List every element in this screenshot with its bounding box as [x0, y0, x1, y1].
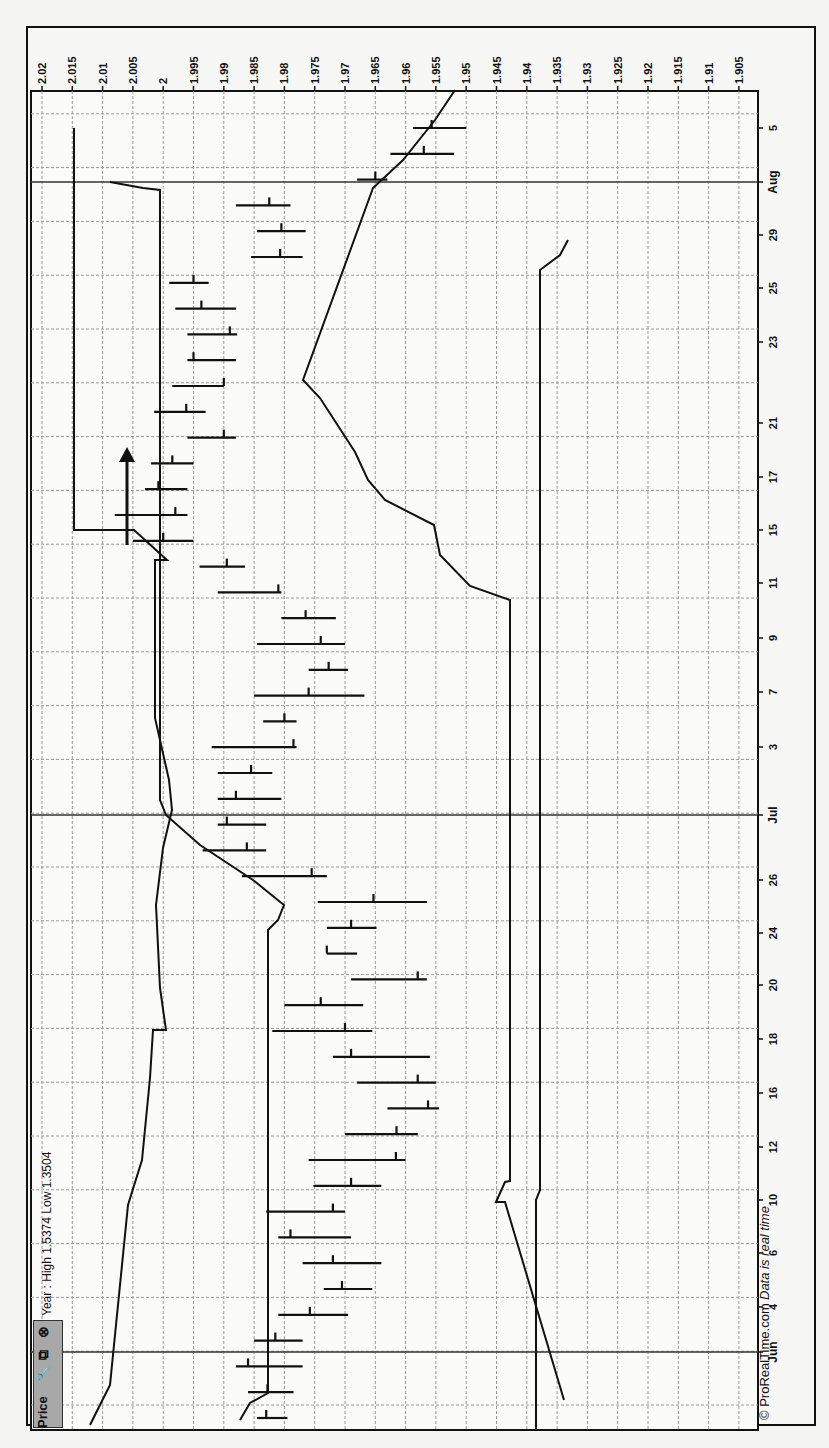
price-tick-label: 1.93 — [581, 63, 593, 84]
wrench-icon[interactable]: 🔧 — [35, 1365, 51, 1382]
date-tick-label: 24 — [767, 926, 779, 939]
duplicate-icon[interactable]: ⧉ — [35, 1350, 52, 1360]
date-tick-label: 23 — [767, 336, 779, 348]
plot-area — [31, 91, 758, 1430]
date-tick-label: 16 — [767, 1087, 779, 1099]
price-tick-label: 1.91 — [703, 63, 715, 84]
panel-title: Price — [35, 1396, 50, 1428]
date-tick-label: Jul — [766, 806, 780, 823]
date-tick-label: 12 — [767, 1141, 779, 1153]
realtime-note: Data is real time — [757, 1206, 772, 1300]
price-tick-label: 1.925 — [612, 56, 624, 84]
date-tick-label: 15 — [767, 524, 779, 536]
year-high-low-info: Year : High 1.5374 Low 1.3504 — [40, 1152, 54, 1316]
price-tick-label: 1.935 — [551, 56, 563, 84]
date-tick-label: 26 — [767, 874, 779, 886]
price-tick-label: 1.99 — [218, 63, 230, 84]
price-tick-label: 2 — [157, 78, 169, 84]
price-tick-label: 1.98 — [278, 63, 290, 84]
price-tick-label: 1.97 — [339, 63, 351, 84]
date-tick-label: 21 — [767, 417, 779, 429]
date-tick-label: 17 — [767, 471, 779, 483]
date-tick-label: 5 — [767, 125, 779, 131]
price-tick-label: 1.915 — [672, 56, 684, 84]
date-tick-label: 3 — [767, 744, 779, 750]
price-tick-label: 1.985 — [248, 56, 260, 84]
date-tick-label: 9 — [767, 635, 779, 641]
date-tick-label: 29 — [767, 229, 779, 241]
price-tick-label: 1.955 — [430, 56, 442, 84]
price-tick-label: 1.905 — [733, 56, 745, 84]
price-tick-label: 1.995 — [188, 56, 200, 84]
price-tick-label: 2.01 — [97, 63, 109, 84]
price-tick-label: 1.965 — [369, 56, 381, 84]
copyright-text: © ProRealTime.com — [757, 1303, 772, 1420]
price-tick-label: 1.975 — [309, 56, 321, 84]
price-tick-label: 2.005 — [127, 56, 139, 84]
date-tick-label: 18 — [767, 1033, 779, 1045]
price-tick-label: 1.95 — [460, 63, 472, 84]
close-icon[interactable]: ⊗ — [35, 1326, 51, 1338]
price-tick-label: 1.94 — [521, 62, 533, 84]
date-tick-label: Aug — [766, 170, 780, 193]
date-tick-label: 20 — [767, 979, 779, 991]
price-tick-label: 1.96 — [400, 63, 412, 84]
date-tick-label: 25 — [767, 282, 779, 294]
price-chart[interactable]: 2.022.0152.012.00521.9951.991.9851.981.9… — [0, 0, 829, 1448]
price-tick-label: 1.92 — [642, 63, 654, 84]
price-tick-label: 1.945 — [491, 56, 503, 84]
price-tick-label: 2.015 — [66, 56, 78, 84]
date-tick-label: 10 — [767, 1194, 779, 1206]
price-tick-label: 2.02 — [36, 63, 48, 84]
date-tick-label: 7 — [767, 689, 779, 695]
date-tick-label: 11 — [767, 577, 779, 589]
